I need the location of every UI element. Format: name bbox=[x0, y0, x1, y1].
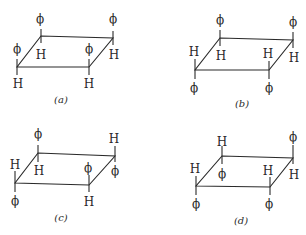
substituent-label: ϕ bbox=[289, 15, 297, 29]
substituent-label: ϕ bbox=[34, 127, 42, 141]
substituent-label: ϕ bbox=[36, 12, 44, 26]
substituent-label: ϕ bbox=[84, 161, 92, 175]
panel-a: ϕ H ϕ H ϕ H ϕ H (a) bbox=[13, 12, 119, 105]
substituent-label: ϕ bbox=[190, 81, 198, 95]
substituent-label: H bbox=[216, 49, 226, 63]
substituent-label: H bbox=[289, 168, 299, 182]
ring-a bbox=[17, 36, 113, 67]
panel-caption: (a) bbox=[54, 94, 68, 105]
panel-c: ϕ H H ϕ H ϕ ϕ H (c) bbox=[10, 127, 119, 223]
substituent-label: H bbox=[36, 48, 46, 62]
substituent-label: H bbox=[217, 135, 227, 149]
substituent-label: ϕ bbox=[218, 167, 226, 181]
substituent-label: ϕ bbox=[289, 130, 297, 144]
substituent-label: H bbox=[289, 51, 299, 65]
substituent-label: ϕ bbox=[109, 12, 117, 26]
panel-caption: (d) bbox=[234, 215, 248, 226]
substituent-label: ϕ bbox=[111, 164, 119, 178]
substituent-label: H bbox=[84, 77, 94, 91]
ring-c bbox=[15, 153, 115, 185]
substituent-label: H bbox=[189, 45, 199, 59]
panel-b: ϕ H ϕ H H ϕ H ϕ (b) bbox=[189, 13, 299, 109]
ring-b bbox=[195, 38, 293, 70]
panel-caption: (c) bbox=[54, 212, 68, 223]
substituent-label: H bbox=[263, 164, 273, 178]
substituent-label: ϕ bbox=[265, 81, 273, 95]
ring-d bbox=[196, 156, 293, 187]
substituent-label: H bbox=[34, 164, 44, 178]
panel-caption: (b) bbox=[235, 98, 249, 109]
substituent-label: H bbox=[263, 47, 273, 61]
substituent-label: ϕ bbox=[11, 194, 19, 208]
substituent-label: ϕ bbox=[192, 197, 200, 211]
substituent-label: ϕ bbox=[85, 42, 93, 56]
substituent-label: ϕ bbox=[265, 197, 273, 211]
substituent-label: H bbox=[84, 195, 94, 209]
substituent-label: H bbox=[190, 162, 200, 176]
substituent-label: H bbox=[109, 132, 119, 146]
isomer-diagram: ϕ H ϕ H ϕ H ϕ H (a) ϕ H ϕ H H ϕ H ϕ (b) … bbox=[0, 0, 306, 235]
substituent-label: H bbox=[13, 77, 23, 91]
panel-d: H ϕ ϕ H H ϕ H ϕ (d) bbox=[190, 130, 299, 226]
substituent-label: ϕ bbox=[216, 13, 224, 27]
substituent-label: ϕ bbox=[13, 42, 21, 56]
substituent-label: H bbox=[109, 48, 119, 62]
substituent-label: H bbox=[10, 158, 20, 172]
